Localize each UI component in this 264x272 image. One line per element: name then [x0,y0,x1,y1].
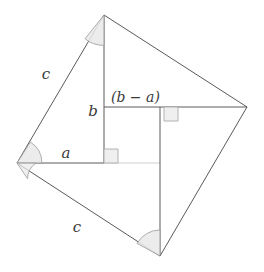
angle-arc-left-vertex-upper [17,142,42,163]
angle-arc-top-vertex [85,15,104,45]
angle-arc-left-vertex-lower [17,163,36,179]
angle-arc-bottom-vertex [137,230,160,256]
label-b-side: b [88,102,98,120]
outer-square-c [17,15,247,256]
label-c-lower-left: c [73,218,82,236]
pythagorean-dissection-figure: c c b a (b − a) [0,0,264,272]
right-angle-marker-inner-top-right [164,107,178,121]
label-a-side: a [62,144,71,162]
label-c-upper-left: c [42,65,51,83]
label-b-minus-a: (b − a) [111,89,160,105]
right-angle-marker-inner-bottom-left [104,149,118,163]
